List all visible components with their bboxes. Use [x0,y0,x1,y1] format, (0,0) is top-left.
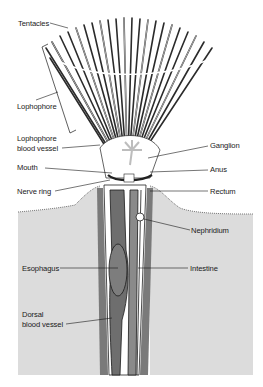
label-rectum: Rectum [210,187,236,196]
sediment [18,186,100,387]
label-ganglion: Ganglion [210,141,240,150]
label-dorsal-blood-vessel-line2: blood vessel [22,320,63,329]
label-mouth: Mouth [17,163,38,172]
label-dorsal-blood-vessel-line1: Dorsal [22,310,43,319]
label-anus: Anus [210,165,227,174]
label-intestine: Intestine [190,264,218,273]
sediment [150,186,253,387]
nephridium [136,213,144,221]
label-nerve-ring: Nerve ring [17,187,51,196]
label-lophophore-blood-vessel-line2: blood vessel [17,144,58,153]
label-tentacles: Tentacles [18,19,49,28]
label-lophophore: Lophophore [17,102,57,111]
label-esophagus: Esophagus [22,264,59,273]
label-lophophore-blood-vessel-line1: Lophophore [17,134,57,143]
label-nephridium: Nephridium [191,226,229,235]
